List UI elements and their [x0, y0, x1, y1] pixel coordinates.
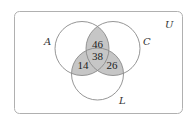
count-a-c-l: 38 — [92, 50, 104, 62]
label-universe: U — [165, 19, 174, 30]
label-set-c: C — [143, 36, 151, 47]
count-a-and-l-only: 14 — [78, 59, 90, 71]
count-c-and-l-only: 26 — [107, 59, 119, 71]
label-set-a: A — [43, 36, 51, 47]
venn-diagram: U A C L 46 38 14 26 — [0, 0, 189, 117]
label-set-l: L — [118, 95, 126, 106]
count-a-and-c-only: 46 — [92, 38, 104, 50]
